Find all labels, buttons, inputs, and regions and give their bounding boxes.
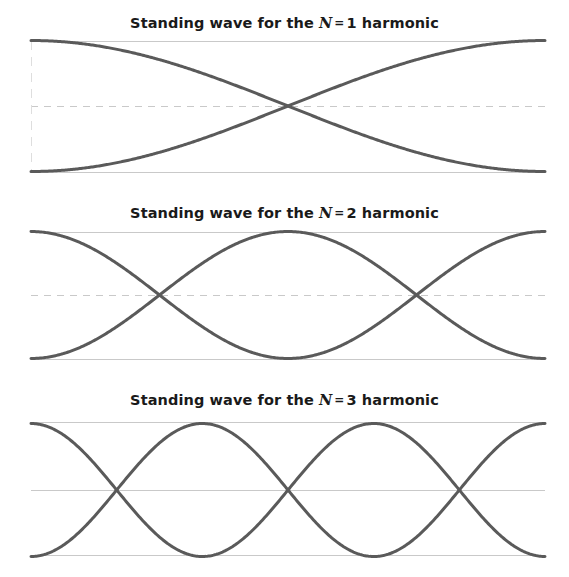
title-equals-sign: = [332, 16, 346, 30]
title-prefix: Standing wave for the [130, 392, 319, 408]
panel-harmonic-2: Standing wave for the N=2 harmonic [0, 204, 569, 371]
title-variable-n: N [319, 391, 332, 408]
wave-plot-harmonic-1 [0, 35, 569, 178]
panel-title-harmonic-3: Standing wave for the N=3 harmonic [0, 391, 569, 408]
wave-curve-negative [31, 232, 545, 359]
wave-plot-harmonic-2 [0, 226, 569, 365]
panel-harmonic-3: Standing wave for the N=3 harmonic [0, 391, 569, 567]
plot-area-harmonic-2 [0, 226, 569, 365]
wave-curve-negative [31, 41, 545, 172]
wave-plot-harmonic-3 [0, 416, 569, 561]
title-suffix: harmonic [357, 15, 439, 31]
title-suffix: harmonic [357, 392, 439, 408]
title-prefix: Standing wave for the [130, 15, 319, 31]
standing-wave-figure: Standing wave for the N=1 harmonicStandi… [0, 0, 569, 577]
wave-curve-positive [31, 232, 545, 359]
plot-area-harmonic-1 [0, 35, 569, 178]
title-variable-n: N [319, 204, 332, 221]
plot-area-harmonic-3 [0, 416, 569, 561]
panel-harmonic-1: Standing wave for the N=1 harmonic [0, 14, 569, 184]
title-variable-n: N [319, 14, 332, 31]
title-equals-sign: = [332, 206, 346, 220]
title-prefix: Standing wave for the [130, 205, 319, 221]
panel-title-harmonic-1: Standing wave for the N=1 harmonic [0, 14, 569, 31]
title-harmonic-number: 3 [347, 392, 357, 408]
title-harmonic-number: 1 [347, 15, 357, 31]
title-equals-sign: = [332, 393, 346, 407]
title-suffix: harmonic [357, 205, 439, 221]
panel-title-harmonic-2: Standing wave for the N=2 harmonic [0, 204, 569, 221]
title-harmonic-number: 2 [347, 205, 357, 221]
